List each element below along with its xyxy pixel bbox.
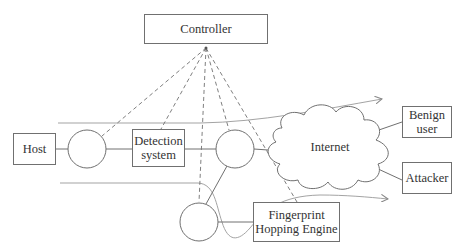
control-link-detection [161,48,206,129]
switch-3[interactable] [180,203,218,241]
fingerprint-hopping-engine-box[interactable]: Fingerprint Hopping Engine [253,202,340,242]
controller-box[interactable]: Controller [144,14,268,44]
fhe-label-line2: Hopping Engine [255,222,337,236]
benign-label-line2: user [417,122,438,136]
detection-label-line1: Detection [134,134,183,148]
link-switch2-internet [254,149,268,150]
control-junction-dot [205,47,208,50]
internet-label: Internet [305,140,355,155]
control-link-switch3 [199,48,206,202]
switch-2[interactable] [216,130,254,168]
host-box[interactable]: Host [13,133,56,165]
fhe-label-line1: Fingerprint [268,208,324,222]
control-link-switch2 [206,48,229,130]
attacker-label: Attacker [405,171,448,185]
benign-user-box[interactable]: Benign user [402,106,452,138]
detection-system-box[interactable]: Detection system [132,129,185,167]
host-label: Host [23,142,47,156]
link-switch2-switch3 [206,166,227,204]
benign-label-line1: Benign [409,108,445,122]
attacker-box[interactable]: Attacker [402,162,452,194]
switch-1[interactable] [68,130,106,168]
detection-label-line2: system [141,148,176,162]
controller-label: Controller [180,22,231,36]
